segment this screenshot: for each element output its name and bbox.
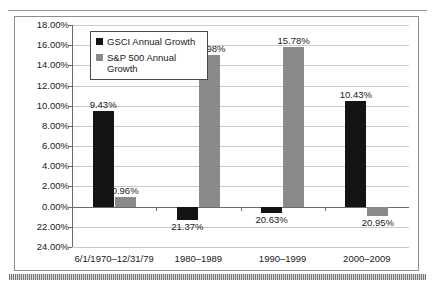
bar-sp500-3 xyxy=(367,207,388,217)
y-axis-tick-label: 4.00% xyxy=(17,161,69,171)
x-axis-category-label: 2000–2009 xyxy=(312,253,422,265)
y-axis-tick-labels: 18.00%16.00%14.00%12.00%10.00%8.00%6.00%… xyxy=(15,17,69,270)
y-axis-tick-label: 16.00% xyxy=(17,40,69,50)
bar-gsci-3 xyxy=(345,101,366,206)
y-axis-tick-label: 0.00% xyxy=(17,202,69,212)
y-axis-tick-label: 12.00% xyxy=(17,81,69,91)
bar-gsci-1 xyxy=(177,207,198,221)
y-axis-tick-label: 8.00% xyxy=(17,121,69,131)
legend-label-sp500: S&P 500 Annual Growth xyxy=(107,52,202,74)
bar-sp500-2 xyxy=(283,47,304,206)
top-horizontal-rule xyxy=(8,10,427,11)
y-axis-tick-label: 22.00% xyxy=(17,222,69,232)
legend-label-gsci: GSCI Annual Growth xyxy=(107,36,195,47)
black-square-marker-icon xyxy=(96,38,103,45)
bar-data-label: 20.95% xyxy=(348,217,408,228)
bar-gsci-2 xyxy=(261,207,282,213)
x-tick-mark xyxy=(325,207,326,211)
bar-data-label: 9.43% xyxy=(73,99,133,110)
bar-data-label: 0.96% xyxy=(95,185,155,196)
gridline xyxy=(72,86,409,87)
plot-area: 9.43%0.96%21.37%14.98%20.63%15.78%10.43%… xyxy=(72,25,409,247)
bottom-decorative-band xyxy=(9,274,426,280)
gray-square-marker-icon xyxy=(96,54,103,61)
bar-data-label: 20.63% xyxy=(242,214,302,225)
x-axis-category-labels: 6/1/1970–12/31/791980–19891990–19992000–… xyxy=(72,253,409,269)
legend-item-gsci: GSCI Annual Growth xyxy=(96,36,202,47)
y-axis-line xyxy=(72,25,73,247)
y-tick-mark xyxy=(68,247,72,248)
chart-legend: GSCI Annual Growth S&P 500 Annual Growth xyxy=(90,31,208,80)
x-tick-mark xyxy=(156,207,157,211)
y-axis-tick-label: 24.00% xyxy=(17,242,69,252)
gridline xyxy=(72,25,409,26)
bar-sp500-0 xyxy=(115,197,136,207)
y-axis-tick-label: 14.00% xyxy=(17,60,69,70)
gridline xyxy=(72,247,409,248)
y-axis-tick-label: 10.00% xyxy=(17,101,69,111)
y-axis-tick-label: 6.00% xyxy=(17,141,69,151)
legend-item-sp500: S&P 500 Annual Growth xyxy=(96,52,202,74)
y-axis-tick-label: 2.00% xyxy=(17,181,69,191)
y-axis-tick-label: 18.00% xyxy=(17,20,69,30)
chart-frame: 18.00%16.00%14.00%12.00%10.00%8.00%6.00%… xyxy=(14,16,419,271)
x-tick-mark xyxy=(241,207,242,211)
bar-data-label: 21.37% xyxy=(157,221,217,232)
bar-data-label: 10.43% xyxy=(326,89,386,100)
bar-data-label: 15.78% xyxy=(264,35,324,46)
